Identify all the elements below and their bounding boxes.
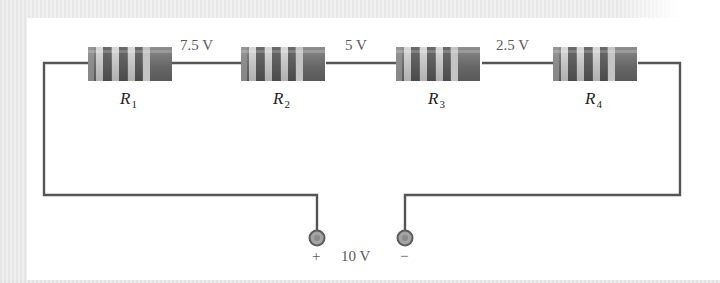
resistor-label-r3: R3	[428, 90, 445, 110]
resistor-label-r3-name: R	[428, 89, 438, 108]
resistor-label-r2: R2	[273, 90, 290, 110]
resistor-label-r4-name: R	[585, 89, 595, 108]
resistor-label-r2-name: R	[273, 89, 283, 108]
resistor-label-r3-subscript: 3	[439, 98, 445, 110]
terminal-positive	[310, 231, 325, 246]
resistor-label-r1: R1	[120, 90, 137, 110]
resistor-label-r1-name: R	[120, 89, 130, 108]
resistor-label-r4: R4	[585, 90, 602, 110]
source-voltage-label: 10 V	[341, 249, 370, 264]
resistor-r2	[241, 47, 325, 81]
node-voltage-label-3: 2.5 V	[496, 38, 529, 53]
wire-top-right	[405, 63, 680, 236]
node-voltage-label-1: 7.5 V	[180, 38, 213, 53]
positive-terminal-label: +	[312, 249, 320, 264]
resistor-r3	[396, 47, 480, 81]
resistor-label-r1-subscript: 1	[131, 98, 137, 110]
terminal-negative	[398, 231, 413, 246]
resistor-label-r4-subscript: 4	[596, 98, 602, 110]
resistor-r4	[553, 47, 637, 81]
negative-terminal-label: −	[400, 249, 408, 264]
resistor-r1	[88, 47, 172, 81]
resistor-label-r2-subscript: 2	[284, 98, 290, 110]
node-voltage-label-2: 5 V	[345, 38, 367, 53]
